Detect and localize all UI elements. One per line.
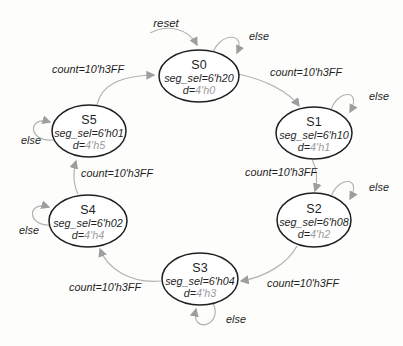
else-label-s4: else (19, 224, 39, 236)
label-s5-s0: count=10'h3FF (52, 63, 125, 75)
state-s1-seg-sel: seg_sel=6'h10 (279, 129, 349, 141)
label-s0-s1: count=10'h3FF (270, 66, 343, 78)
state-s5-name: S5 (81, 113, 96, 127)
else-label-s5: else (21, 134, 41, 146)
label-s3-s4: count=10'h3FF (69, 281, 142, 293)
state-s4: S4 seg_sel=6'h02 d=4'h4 (49, 195, 127, 247)
self-loop-s0 (213, 37, 239, 53)
self-loop-s1 (331, 95, 354, 113)
state-s2-d: d=4'h2 (298, 228, 330, 240)
label-s1-s2: count=10'h3FF (245, 166, 318, 178)
state-s3-name: S3 (192, 261, 207, 275)
state-s4-d: d=4'h4 (72, 229, 104, 241)
state-s3-d: d=4'h3 (184, 287, 216, 299)
state-s1: S1 seg_sel=6'h10 d=4'h1 (276, 107, 352, 159)
state-s4-seg-sel: seg_sel=6'h02 (53, 217, 123, 229)
state-s3: S3 seg_sel=6'h04 d=4'h3 (162, 253, 238, 305)
arrow-s3-s4 (100, 249, 161, 281)
state-s0-seg-sel: seg_sel=6'h20 (164, 72, 234, 84)
state-s0-d: d=4'h0 (183, 84, 215, 96)
arrow-s5-s0 (97, 75, 154, 105)
self-loop-s2 (331, 182, 354, 200)
label-s4-s5: count=10'h3FF (81, 167, 154, 179)
state-s0: S0 seg_sel=6'h20 d=4'h0 (159, 50, 239, 102)
else-label-s0: else (249, 30, 269, 42)
self-loop-s3 (195, 303, 215, 325)
state-s4-name: S4 (80, 203, 95, 217)
state-s2-name: S2 (306, 202, 321, 216)
arrow-s4-s5 (74, 161, 78, 194)
else-label-s2: else (369, 181, 389, 193)
arrow-s0-s1 (238, 74, 299, 106)
state-s5-seg-sel: seg_sel=6'h01 (54, 127, 124, 139)
state-s0-name: S0 (191, 58, 206, 72)
reset-label: reset (153, 17, 179, 29)
state-s3-seg-sel: seg_sel=6'h04 (165, 275, 235, 287)
fsm-diagram: reset count=10'h3FF count=10'h3FF count=… (0, 0, 403, 346)
arrow-s2-s3 (241, 246, 297, 281)
state-s2: S2 seg_sel=6'h08 d=4'h2 (277, 193, 351, 247)
state-s2-seg-sel: seg_sel=6'h08 (279, 216, 349, 228)
else-label-s3: else (226, 313, 246, 325)
reset-arrow (150, 28, 197, 45)
state-s1-name: S1 (306, 115, 321, 129)
else-label-s1: else (369, 90, 389, 102)
state-s5-d: d=4'h5 (73, 139, 106, 151)
state-s5: S5 seg_sel=6'h01 d=4'h5 (52, 105, 126, 157)
state-s1-d: d=4'h1 (298, 141, 330, 153)
label-s2-s3: count=10'h3FF (267, 277, 340, 289)
